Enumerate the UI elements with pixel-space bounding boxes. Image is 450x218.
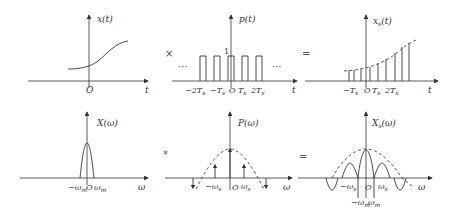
ellipsis-right: ··· bbox=[272, 61, 282, 72]
pulse bbox=[214, 56, 220, 81]
P-omega-label: P(ω) bbox=[237, 118, 259, 128]
panel-P-omega: P(ω) −ωs O ωs ω bbox=[165, 112, 292, 192]
origin-label: O bbox=[365, 183, 372, 192]
tick-minus-omega-m: −ωm bbox=[68, 183, 87, 193]
panel-Xs-omega: Xs(ω) −ωs O ωs −ωm ωm ω bbox=[298, 112, 432, 208]
ellipsis-left: ··· bbox=[178, 61, 188, 72]
panel-p-t: p(t) 1 ··· ··· −2Ts −Ts O Ts 2Ts t bbox=[172, 14, 297, 96]
tick-minus-Ts: −Ts bbox=[343, 86, 358, 96]
X-omega-label: X(ω) bbox=[96, 118, 118, 128]
tick-Ts: Ts bbox=[372, 86, 380, 96]
equals-operator: = bbox=[302, 48, 310, 59]
multiply-operator: × bbox=[165, 48, 173, 59]
tick-2Ts: 2Ts bbox=[250, 86, 265, 96]
tick-omega-s: ωs bbox=[378, 182, 388, 192]
convolution-operator: * bbox=[163, 149, 168, 160]
origin-label: O bbox=[86, 183, 93, 192]
tick-omega-s: ωs bbox=[241, 182, 251, 192]
pulse bbox=[242, 56, 248, 81]
x-t-label: x(t) bbox=[97, 14, 113, 24]
pulse bbox=[200, 56, 206, 81]
panel-x-t: x(t) O t bbox=[28, 14, 149, 95]
sample-lines bbox=[349, 43, 409, 81]
tick-minus-Ts: −Ts bbox=[210, 86, 225, 96]
tick-minus-2Ts: −2Ts bbox=[185, 86, 205, 96]
tick-omega-m: ωm bbox=[368, 198, 381, 208]
tick-minus-omega-s: −ωs bbox=[205, 182, 221, 192]
envelope-curve bbox=[344, 39, 418, 71]
tick-2Ts: 2Ts bbox=[384, 86, 399, 96]
sidelobe-minus-2ws bbox=[326, 178, 338, 190]
x-t-curve bbox=[68, 41, 128, 69]
omega-label: ω bbox=[138, 182, 146, 192]
tick-omega-m: ωm bbox=[94, 183, 107, 193]
origin-label: O bbox=[229, 86, 236, 95]
Xs-omega-label: Xs(ω) bbox=[371, 118, 396, 129]
sinc-envelope bbox=[332, 149, 412, 186]
panel-X-omega: X(ω) −ωm O ωm ω bbox=[20, 112, 148, 193]
tick-Ts: Ts bbox=[238, 86, 246, 96]
sampling-diagram: x(t) O t × p(t) 1 ··· ··· −2Ts −Ts O Ts … bbox=[0, 0, 450, 218]
sidelobe-2ws bbox=[394, 178, 406, 190]
xs-t-label: xs(t) bbox=[373, 16, 392, 27]
equals-operator: = bbox=[299, 151, 307, 162]
origin-label: O bbox=[86, 85, 94, 95]
omega-label: ω bbox=[418, 182, 426, 192]
pulse bbox=[256, 56, 262, 81]
tick-minus-omega-s: −ωs bbox=[340, 182, 356, 192]
sidelobe-minus-ws bbox=[342, 163, 358, 178]
pulse-height-label: 1 bbox=[224, 47, 229, 56]
panel-xs-t: xs(t) −Ts O Ts 2Ts t bbox=[305, 15, 438, 96]
sidelobe-ws bbox=[374, 163, 390, 178]
t-label: t bbox=[428, 85, 432, 95]
origin-label: O bbox=[364, 86, 371, 95]
omega-label: ω bbox=[283, 182, 291, 192]
t-label: t bbox=[292, 85, 296, 95]
origin-label: O bbox=[232, 183, 239, 192]
p-t-label: p(t) bbox=[239, 14, 256, 24]
t-label: t bbox=[145, 85, 149, 95]
